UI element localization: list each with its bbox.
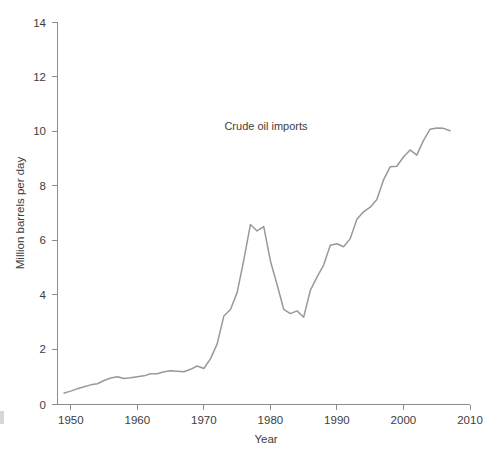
edge-artifact-mark xyxy=(0,411,4,424)
y-tick-label: 4 xyxy=(40,289,47,301)
y-tick-label: 10 xyxy=(33,125,46,137)
x-axis-tick-labels: 1950 1960 1970 1980 1990 2000 2010 xyxy=(58,414,483,426)
x-tick-label: 1950 xyxy=(58,414,84,426)
y-tick-label: 2 xyxy=(40,343,46,355)
y-axis-title: Million barrels per day xyxy=(14,157,26,270)
data-series-line xyxy=(64,128,450,393)
y-tick-label: 8 xyxy=(40,180,46,192)
x-tick-label: 2000 xyxy=(391,414,417,426)
line-chart: 14 12 10 8 6 4 2 0 1950 1960 1970 1980 1… xyxy=(0,0,498,450)
y-tick-label: 0 xyxy=(40,399,46,411)
y-axis-tickmarks xyxy=(52,23,58,405)
x-axis-tickmarks xyxy=(71,405,470,411)
y-tick-label: 6 xyxy=(40,234,46,246)
y-tick-label: 14 xyxy=(33,17,46,29)
chart-figure: 14 12 10 8 6 4 2 0 1950 1960 1970 1980 1… xyxy=(0,0,498,450)
x-tick-label: 1970 xyxy=(191,414,217,426)
x-tick-label: 1980 xyxy=(258,414,284,426)
y-tick-label: 12 xyxy=(33,71,46,83)
x-axis-title: Year xyxy=(254,433,277,445)
x-tick-label: 2010 xyxy=(457,414,483,426)
x-tick-label: 1960 xyxy=(125,414,151,426)
x-tick-label: 1990 xyxy=(324,414,350,426)
series-annotation-label: Crude oil imports xyxy=(224,120,308,132)
y-axis-tick-labels: 14 12 10 8 6 4 2 0 xyxy=(33,17,46,411)
